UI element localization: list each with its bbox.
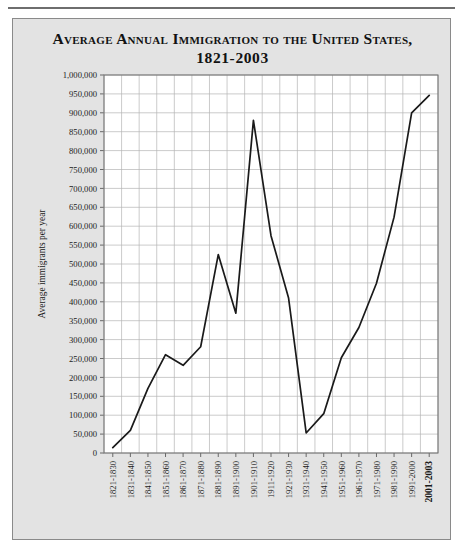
y-axis-tick-label: 550,000 — [69, 240, 97, 250]
y-axis-tick-label: 150,000 — [69, 391, 97, 401]
x-axis-tick-label: 1851-1860 — [161, 461, 171, 498]
y-axis-title: Average immigrants per year — [37, 209, 47, 319]
x-axis-tick-label: 1991-2000 — [407, 461, 417, 498]
y-axis-tick-label: 800,000 — [69, 146, 97, 156]
y-axis-tick-label: 0 — [93, 448, 97, 458]
x-axis-tick-label: 1901-1910 — [249, 461, 259, 498]
x-axis-tick-label: 1941-1950 — [319, 461, 329, 498]
y-axis-tick-label: 350,000 — [69, 316, 97, 326]
x-axis-tick-label: 1871-1880 — [196, 461, 206, 498]
y-axis-tick-label: 100,000 — [69, 410, 97, 420]
x-axis-tick-label: 1951-1960 — [337, 461, 347, 498]
x-axis-tick-label: 1831-1840 — [126, 461, 136, 498]
x-axis-tick-label: 1971-1980 — [372, 461, 382, 498]
y-axis-tick-label: 50,000 — [73, 429, 97, 439]
y-axis-tick-label: 750,000 — [69, 165, 97, 175]
y-axis-tick-label: 300,000 — [69, 335, 97, 345]
y-axis-tick-label: 650,000 — [69, 202, 97, 212]
x-axis-tick-label: 1861-1870 — [178, 461, 188, 498]
line-chart: 1,000,000950,000900,000850,000800,000750… — [13, 19, 452, 541]
x-axis-tick-label: 2001-2003 — [423, 461, 434, 503]
y-axis-tick-label: 250,000 — [69, 354, 97, 364]
y-axis-tick-label: 700,000 — [69, 184, 97, 194]
y-axis-tick-label: 450,000 — [69, 278, 97, 288]
x-axis-tick-label: 1961-1970 — [354, 461, 364, 498]
y-axis-tick-label: 500,000 — [69, 259, 97, 269]
top-divider-rule — [8, 7, 455, 9]
y-axis-tick-label: 200,000 — [69, 373, 97, 383]
chart-figure: Average Annual Immigration to the United… — [12, 18, 451, 540]
y-axis-tick-label: 900,000 — [69, 108, 97, 118]
x-axis-tick-label: 1841-1850 — [143, 461, 153, 498]
y-axis-tick-label: 600,000 — [69, 221, 97, 231]
x-axis-tick-label: 1931-1940 — [301, 461, 311, 498]
y-axis-tick-label: 950,000 — [69, 89, 97, 99]
x-axis-tick-label: 1921-1930 — [284, 461, 294, 498]
x-axis-tick-label: 1981-1990 — [389, 461, 399, 498]
plot-area: 1,000,000950,000900,000850,000800,000750… — [37, 70, 438, 502]
x-axis-tick-label: 1881-1890 — [213, 461, 223, 498]
y-axis-tick-label: 1,000,000 — [63, 70, 97, 80]
y-axis-tick-label: 850,000 — [69, 127, 97, 137]
x-axis-tick-label: 1891-1900 — [231, 461, 241, 498]
x-axis-tick-label: 1821-1830 — [108, 461, 118, 498]
y-axis-tick-label: 400,000 — [69, 297, 97, 307]
x-axis-tick-label: 1911-1920 — [266, 461, 276, 498]
